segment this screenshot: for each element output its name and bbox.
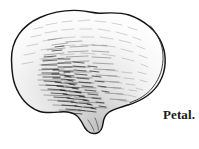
- petal-illustration: [0, 0, 199, 149]
- figure-caption: Petal.: [163, 107, 195, 122]
- figure-root: Petal.: [0, 0, 199, 149]
